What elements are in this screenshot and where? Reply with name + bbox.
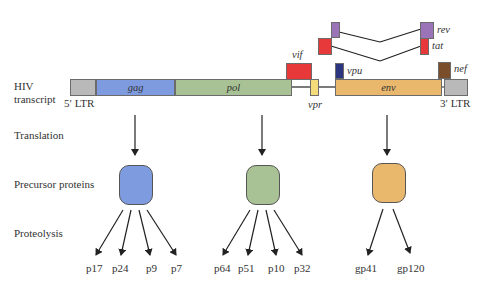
label-vpr: vpr: [308, 99, 322, 110]
label-nef: nef: [454, 63, 467, 74]
gene-tat-exon2: [420, 38, 429, 55]
gene-3-ltr: [444, 79, 468, 96]
product-p51: p51: [238, 262, 255, 274]
precursor-env: [372, 163, 406, 203]
gene-vif: [286, 63, 312, 80]
label-tat: tat: [432, 40, 443, 51]
gene-5-ltr: [70, 79, 96, 96]
product-p7: p7: [171, 262, 182, 274]
connector-lines: [0, 0, 486, 281]
gene-env: env: [335, 79, 442, 96]
gene-rev-exon1: [331, 22, 340, 38]
label-vif: vif: [292, 49, 303, 60]
gene-gag-label: gag: [128, 82, 144, 93]
product-gp120: gp120: [397, 262, 425, 274]
gene-rev-exon2: [420, 22, 434, 39]
precursor-gag: [119, 165, 153, 205]
label-rev: rev: [437, 24, 450, 35]
label-5-ltr: 5′ LTR: [64, 97, 94, 109]
product-p64: p64: [214, 262, 231, 274]
product-p24: p24: [112, 262, 129, 274]
product-p17: p17: [86, 262, 103, 274]
gene-gag: gag: [96, 79, 175, 96]
label-vpu: vpu: [347, 65, 362, 76]
gene-vpr: [310, 79, 319, 96]
product-p32: p32: [294, 262, 311, 274]
product-p9: p9: [146, 262, 157, 274]
gene-pol-label: pol: [227, 82, 240, 93]
gene-pol: pol: [175, 79, 292, 96]
label-3-ltr: 3′ LTR: [440, 97, 470, 109]
gene-nef: [438, 62, 451, 79]
gene-tat-exon1: [318, 38, 332, 55]
gene-env-label: env: [381, 82, 396, 93]
precursor-pol: [246, 165, 280, 205]
gene-vpu: [335, 63, 344, 79]
product-gp41: gp41: [355, 262, 377, 274]
product-p10: p10: [268, 262, 285, 274]
